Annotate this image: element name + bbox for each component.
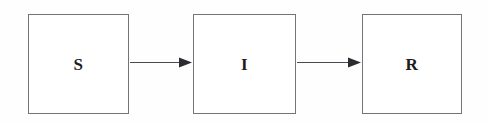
- arrow-head-i-to-r: [348, 58, 361, 68]
- compartment-label-infected: I: [241, 56, 248, 73]
- compartment-label-recovered: R: [406, 56, 419, 73]
- compartment-box-susceptible[interactable]: S: [28, 14, 129, 114]
- flow-arrow-susceptible-to-infected: [130, 58, 192, 68]
- flow-arrow-infected-to-recovered: [297, 58, 361, 68]
- compartment-box-infected[interactable]: I: [193, 14, 296, 114]
- compartment-box-recovered[interactable]: R: [362, 14, 462, 114]
- arrow-head-s-to-i: [179, 58, 192, 68]
- compartment-label-susceptible: S: [74, 56, 84, 73]
- sir-model-diagram: S I R: [0, 0, 488, 124]
